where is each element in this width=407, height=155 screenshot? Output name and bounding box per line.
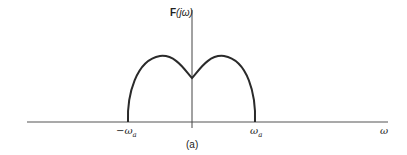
y-axis-label: F(jω) bbox=[170, 7, 193, 18]
spectrum-figure: F(jω) −ωa ωa ω (a) bbox=[0, 0, 407, 155]
tick-right-main: ω bbox=[250, 125, 258, 136]
tick-label-neg-omega-a: −ωa bbox=[116, 125, 137, 139]
tick-right-sub: a bbox=[258, 131, 262, 139]
y-axis-label-arg: (jω) bbox=[176, 7, 193, 18]
x-axis-label: ω bbox=[380, 125, 388, 136]
tick-left-sub: a bbox=[133, 131, 137, 139]
spectrum-plot bbox=[0, 0, 407, 155]
tick-left-main: −ω bbox=[116, 125, 133, 136]
figure-caption: (a) bbox=[186, 139, 198, 150]
tick-label-omega-a: ωa bbox=[250, 125, 262, 139]
